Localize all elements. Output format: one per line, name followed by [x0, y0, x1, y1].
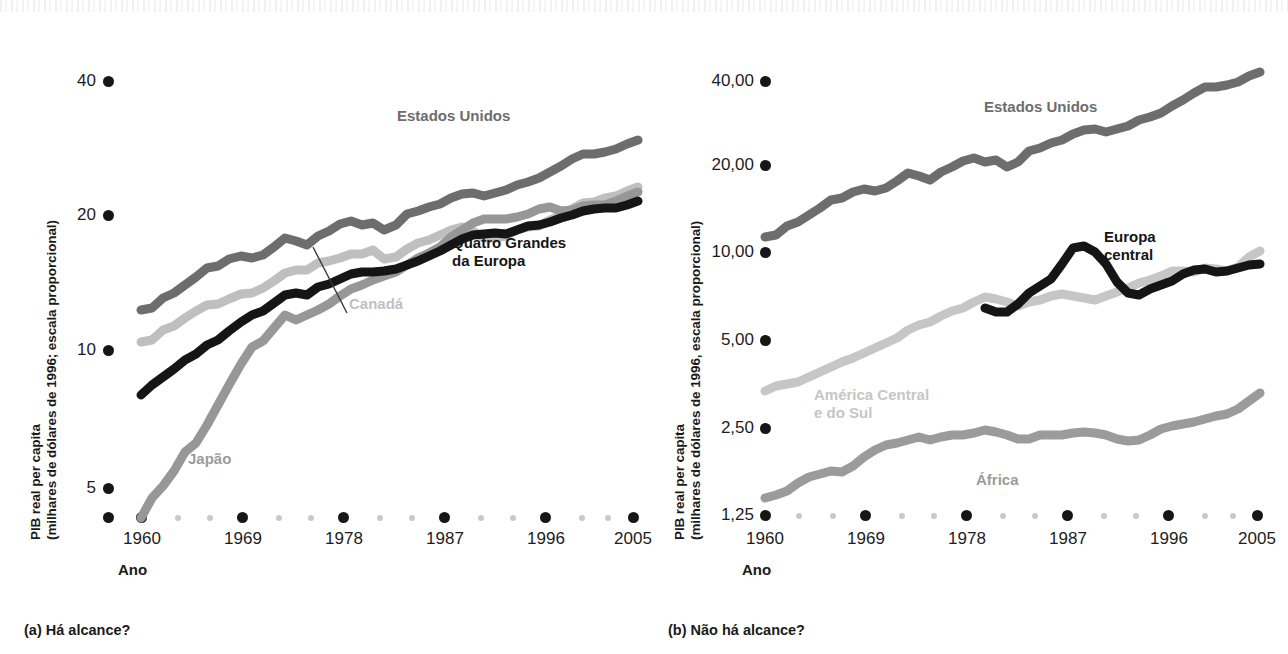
panel-a: PIB real per capita (milhares de dólares…: [0, 0, 644, 654]
panel-a-lines-svg: [0, 0, 644, 654]
panel-b-plot-area: [644, 0, 1288, 654]
panel-a-plot-area: [0, 0, 644, 654]
line-estados-unidos: [765, 72, 1260, 237]
series-label-canada: Canadá: [349, 295, 403, 313]
series-label-europa-central: Europa central: [1104, 228, 1156, 264]
series-label-estados-unidos: Estados Unidos: [397, 107, 510, 125]
series-label-europa-central-line1: Europa: [1104, 228, 1156, 246]
panel-b-caption: (b) Não há alcance?: [668, 622, 805, 638]
series-label-europa-central-line2: central: [1104, 246, 1156, 264]
series-label-quatro-grandes-line2: da Europa: [452, 252, 566, 270]
series-label-america-central-e-do-sul: América Central e do Sul: [814, 386, 929, 422]
series-label-japao: Japão: [188, 450, 231, 468]
series-label-america-central-line2: e do Sul: [814, 404, 929, 422]
panel-b: PIB real per capita (milhares de dólares…: [644, 0, 1288, 654]
line-estados-unidos: [141, 140, 638, 310]
series-label-africa: África: [976, 471, 1019, 489]
series-label-quatro-grandes-da-europa: Quatro Grandes da Europa: [452, 234, 566, 270]
panel-b-lines-svg: [644, 0, 1288, 654]
series-label-america-central-line1: América Central: [814, 386, 929, 404]
panel-a-caption: (a) Há alcance?: [24, 622, 130, 638]
series-label-quatro-grandes-line1: Quatro Grandes: [452, 234, 566, 252]
series-label-estados-unidos: Estados Unidos: [984, 98, 1097, 116]
